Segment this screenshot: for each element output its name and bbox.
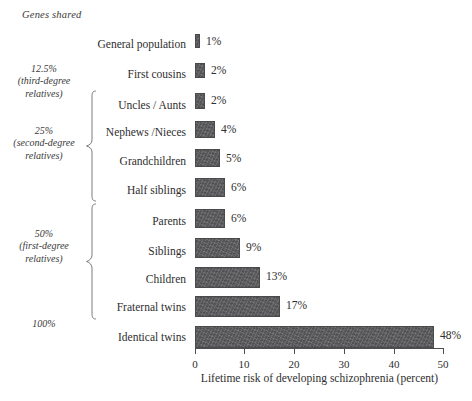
- category-label-grandchildren: Grandchildren: [0, 155, 186, 168]
- bar-siblings: [195, 238, 240, 258]
- x-axis-tick-label-10: 10: [239, 358, 250, 370]
- x-axis-tick-label-40: 40: [389, 358, 400, 370]
- bar-value-fraternal-twins: 17%: [286, 299, 307, 312]
- bar-children: [195, 267, 260, 288]
- bar-uncles-aunts: [195, 93, 205, 109]
- category-label-general-population: General population: [0, 38, 186, 51]
- category-label-uncles-aunts: Uncles / Aunts: [0, 99, 186, 112]
- group-label-identical: 100%: [2, 318, 86, 330]
- x-axis-tick-label-30: 30: [339, 358, 350, 370]
- bar-value-grandchildren: 5%: [226, 152, 241, 165]
- category-label-parents: Parents: [0, 215, 186, 228]
- x-axis-tick-label-50: 50: [438, 358, 449, 370]
- bar-value-children: 13%: [266, 270, 287, 283]
- bar-grandchildren: [195, 149, 220, 167]
- bar-value-general-population: 1%: [206, 35, 221, 48]
- category-label-siblings: Siblings: [0, 245, 186, 258]
- bar-fraternal-twins: [195, 296, 280, 317]
- bar-value-uncles-aunts: 2%: [211, 94, 226, 107]
- x-axis-tick-label-20: 20: [289, 358, 300, 370]
- group-percent: 50%: [2, 228, 86, 240]
- bar-value-first-cousins: 2%: [211, 64, 226, 77]
- x-axis-tick-40: [394, 349, 395, 354]
- group-sub-line1: (second-degree: [2, 137, 86, 149]
- x-axis-tick-30: [344, 349, 345, 354]
- category-label-identical-twins: Identical twins: [0, 331, 186, 344]
- schizophrenia-risk-chart: Genes shared 12.5% (third-degree relativ…: [0, 0, 472, 401]
- category-label-half-siblings: Half siblings: [0, 184, 186, 197]
- bar-value-siblings: 9%: [246, 241, 261, 254]
- category-label-nephews-nieces: Nephews /Nieces: [0, 126, 186, 139]
- bar-value-nephews-nieces: 4%: [221, 123, 236, 136]
- bar-value-identical-twins: 48%: [440, 329, 461, 342]
- bar-first-cousins: [195, 63, 205, 78]
- x-axis-tick-10: [244, 349, 245, 354]
- bar-nephews-nieces: [195, 121, 215, 138]
- bar-half-siblings: [195, 178, 225, 197]
- genes-shared-header: Genes shared: [22, 9, 81, 20]
- bar-identical-twins: [195, 326, 434, 348]
- category-label-fraternal-twins: Fraternal twins: [0, 301, 186, 314]
- x-axis-tick-20: [294, 349, 295, 354]
- x-axis-title: Lifetime risk of developing schizophreni…: [195, 372, 444, 384]
- bar-general-population: [195, 34, 200, 48]
- bar-parents: [195, 209, 225, 228]
- category-label-first-cousins: First cousins: [0, 68, 186, 81]
- x-axis-tick-0: [195, 349, 196, 354]
- bar-value-parents: 6%: [231, 212, 246, 225]
- x-axis-tick-50: [443, 349, 444, 354]
- x-axis-line: [195, 348, 444, 349]
- category-label-children: Children: [0, 273, 186, 286]
- plot-area: 1% 2% 2% 4% 5% 6% 6% 9% 13% 17% 48% 0 10…: [195, 25, 444, 349]
- x-axis-tick-label-0: 0: [192, 358, 198, 370]
- group-percent: 100%: [2, 318, 86, 330]
- bar-value-half-siblings: 6%: [231, 181, 246, 194]
